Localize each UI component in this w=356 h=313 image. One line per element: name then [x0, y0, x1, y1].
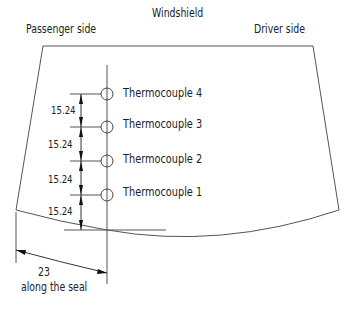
windshield-title: Windshield: [152, 6, 203, 20]
spacing-dim-1-base: 15.24: [48, 205, 73, 218]
passenger-side-label: Passenger side: [26, 22, 96, 36]
spacing-dim-4-3: 15.24: [51, 104, 76, 117]
seal-dim-note: along the seal: [21, 280, 87, 294]
spacing-dim-2-1: 15.24: [48, 173, 73, 186]
spacing-dim-3-2: 15.24: [48, 138, 73, 151]
driver-side-label: Driver side: [254, 22, 305, 36]
thermocouple-1-label: Thermocouple 1: [123, 184, 202, 199]
thermocouple-3-label: Thermocouple 3: [123, 116, 202, 131]
thermocouple-4-label: Thermocouple 4: [123, 85, 202, 100]
thermocouple-2-label: Thermocouple 2: [123, 151, 202, 166]
seal-dim-value: 23: [38, 265, 50, 279]
